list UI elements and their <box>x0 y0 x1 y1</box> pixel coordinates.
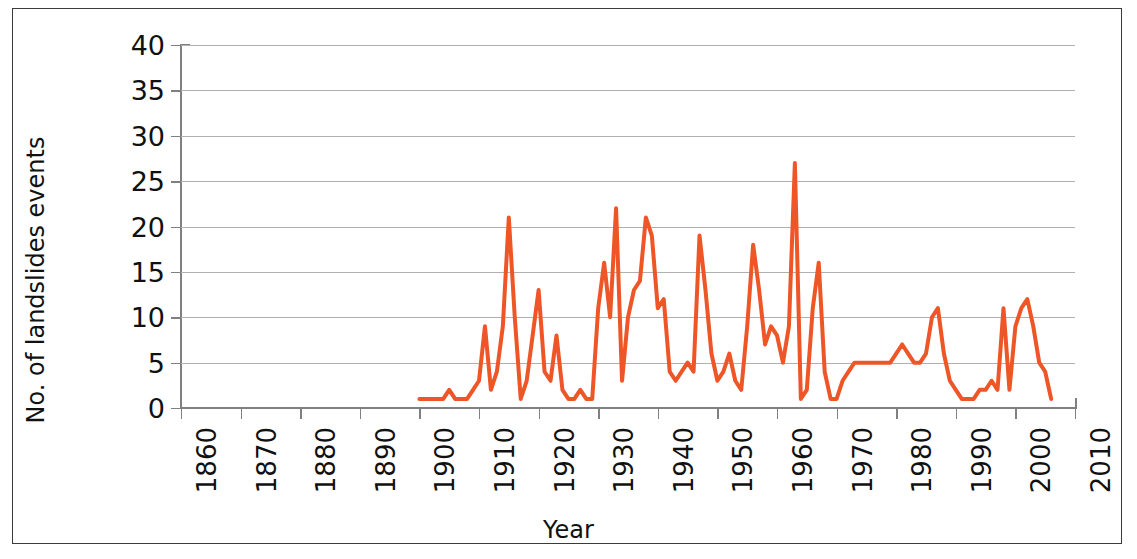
y-tick-label-10: 10 <box>105 304 165 331</box>
series-line-landslide-events <box>419 163 1051 399</box>
x-tick-mark-1890 <box>360 408 361 419</box>
gridline-y-0 <box>181 408 1075 409</box>
x-tick-label-1890: 1890 <box>371 427 401 493</box>
y-tick-label-15: 15 <box>105 258 165 285</box>
x-tick-label-1980: 1980 <box>907 427 937 493</box>
x-tick-label-1950: 1950 <box>728 427 758 493</box>
y-tick-mark-30 <box>171 136 181 137</box>
y-axis-title: No. of landslides events <box>22 136 50 423</box>
x-tick-label-2000: 2000 <box>1026 427 1056 493</box>
x-tick-mark-1980 <box>896 408 897 419</box>
x-tick-mark-1870 <box>241 408 242 419</box>
figure-container: No. of landslides events Year 0510152025… <box>0 0 1137 559</box>
x-tick-mark-1910 <box>479 408 480 419</box>
x-tick-label-1930: 1930 <box>609 427 639 493</box>
x-tick-mark-1880 <box>300 408 301 419</box>
y-tick-label-0: 0 <box>105 395 165 422</box>
x-tick-mark-2010 <box>1075 408 1076 419</box>
y-tick-label-20: 20 <box>105 213 165 240</box>
x-tick-label-1880: 1880 <box>311 427 341 493</box>
plot-area: 0510152025303540 18601870188018901900191… <box>181 45 1075 408</box>
x-tick-mark-1960 <box>777 408 778 419</box>
y-tick-label-40: 40 <box>105 32 165 59</box>
x-tick-mark-1860 <box>181 408 182 419</box>
x-axis-title: Year <box>0 516 1137 544</box>
y-tick-mark-15 <box>171 272 181 273</box>
x-tick-label-1940: 1940 <box>669 427 699 493</box>
x-tick-mark-1990 <box>956 408 957 419</box>
y-tick-mark-5 <box>171 363 181 364</box>
y-tick-mark-10 <box>171 317 181 318</box>
y-tick-mark-40 <box>171 45 181 46</box>
x-tick-mark-1900 <box>419 408 420 419</box>
x-tick-label-1900: 1900 <box>430 427 460 493</box>
x-tick-mark-1950 <box>717 408 718 419</box>
x-tick-label-1920: 1920 <box>550 427 580 493</box>
x-tick-mark-1940 <box>658 408 659 419</box>
y-tick-mark-20 <box>171 227 181 228</box>
x-tick-label-1870: 1870 <box>252 427 282 493</box>
series-line-chart <box>181 45 1075 408</box>
y-tick-label-30: 30 <box>105 122 165 149</box>
y-tick-mark-35 <box>171 90 181 91</box>
y-tick-label-25: 25 <box>105 168 165 195</box>
x-tick-label-1860: 1860 <box>192 427 222 493</box>
x-tick-mark-1970 <box>837 408 838 419</box>
x-tick-label-1990: 1990 <box>967 427 997 493</box>
x-tick-label-1970: 1970 <box>848 427 878 493</box>
x-tick-label-2010: 2010 <box>1086 427 1116 493</box>
y-tick-mark-0 <box>171 408 181 409</box>
x-tick-label-1910: 1910 <box>490 427 520 493</box>
x-tick-mark-2000 <box>1015 408 1016 419</box>
x-tick-label-1960: 1960 <box>788 427 818 493</box>
y-tick-mark-25 <box>171 181 181 182</box>
x-tick-mark-1920 <box>539 408 540 419</box>
x-tick-mark-1930 <box>598 408 599 419</box>
y-tick-label-35: 35 <box>105 77 165 104</box>
y-tick-label-5: 5 <box>105 349 165 376</box>
